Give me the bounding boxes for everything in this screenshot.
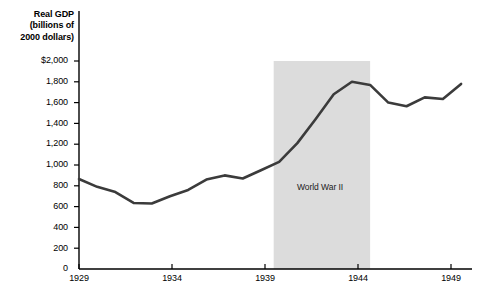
y-tick-label-1200: 1,200: [6, 139, 68, 148]
x-tick-label-1939: 1939: [245, 274, 285, 283]
y-tick-label-1000: 1,000: [6, 160, 68, 169]
y-tick-label-1400: 1,400: [6, 119, 68, 128]
real-gdp-line-series: [79, 82, 461, 204]
y-tick-label-1800: 1,800: [6, 77, 68, 86]
y-axis-ticks: [74, 61, 79, 248]
x-tick-label-1934: 1934: [152, 274, 192, 283]
y-tick-label-600: 600: [6, 202, 68, 211]
chart-plot: [0, 0, 481, 291]
y-tick-label-1600: 1,600: [6, 98, 68, 107]
x-tick-label-1929: 1929: [59, 274, 99, 283]
y-tick-label-0: 0: [6, 264, 68, 273]
x-axis-ticks: [79, 264, 451, 269]
y-tick-label-400: 400: [6, 223, 68, 232]
world-war-ii-shaded-band: [274, 61, 370, 269]
y-tick-label-800: 800: [6, 181, 68, 190]
chart-figure: Real GDP (billions of 2000 dollars): [0, 0, 481, 291]
x-tick-label-1944: 1944: [338, 274, 378, 283]
x-tick-label-1949: 1949: [431, 274, 471, 283]
y-tick-label-200: 200: [6, 244, 68, 253]
world-war-ii-label: World War II: [297, 182, 343, 192]
y-tick-label-2000: $2,000: [6, 56, 68, 65]
